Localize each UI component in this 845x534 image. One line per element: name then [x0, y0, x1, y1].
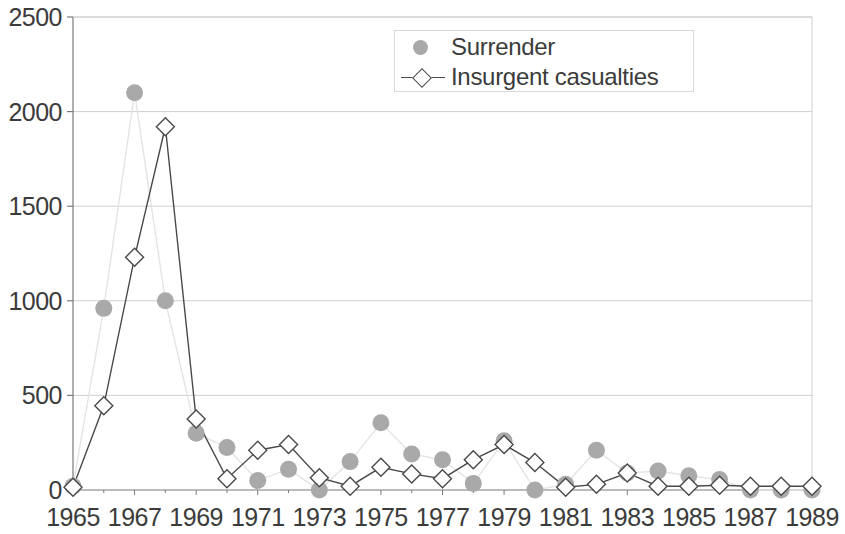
data-point-insurgent-casualties: [464, 451, 482, 469]
x-tick-label: 1965: [46, 503, 100, 532]
legend-label-surrender: Surrender: [451, 31, 555, 62]
data-point-surrender: [218, 439, 235, 456]
y-tick-label: 500: [22, 381, 62, 410]
x-tick-label: 1969: [169, 503, 223, 532]
x-tick-label: 1989: [785, 503, 839, 532]
data-point-surrender: [434, 451, 451, 468]
data-point-insurgent-casualties: [403, 465, 421, 483]
x-tick-label: 1975: [354, 503, 408, 532]
series-surrender-line: [73, 93, 812, 490]
circle-marker-icon: [413, 40, 428, 55]
data-point-surrender: [342, 453, 359, 470]
data-point-insurgent-casualties: [126, 248, 144, 266]
x-tick-label: 1985: [662, 503, 716, 532]
series-insurgent-markers: [64, 118, 821, 496]
x-tick-label: 1971: [231, 503, 285, 532]
x-tick-label: 1987: [724, 503, 778, 532]
data-point-insurgent-casualties: [341, 477, 359, 495]
y-tick-label: 0: [49, 476, 62, 505]
x-tick-label: 1983: [600, 503, 654, 532]
y-tick-label: 2000: [8, 97, 62, 126]
data-point-insurgent-casualties: [434, 470, 452, 488]
y-tick-label: 1500: [8, 192, 62, 221]
data-point-insurgent-casualties: [156, 118, 174, 136]
diamond-marker-icon: [412, 68, 432, 88]
chart-legend: Surrender Insurgent casualties: [394, 30, 694, 92]
data-point-insurgent-casualties: [95, 397, 113, 415]
data-point-insurgent-casualties: [618, 464, 636, 482]
data-point-surrender: [403, 446, 420, 463]
legend-item-insurgent-casualties: Insurgent casualties: [395, 61, 693, 92]
series-surrender-markers: [65, 84, 821, 498]
x-tick-label: 1979: [477, 503, 531, 532]
legend-item-surrender: Surrender: [395, 31, 693, 62]
series-insurgent-line: [73, 127, 812, 487]
x-tick-label: 1973: [293, 503, 347, 532]
data-point-insurgent-casualties: [526, 454, 544, 472]
y-tick-label: 1000: [8, 286, 62, 315]
legend-label-insurgent-casualties: Insurgent casualties: [451, 61, 658, 92]
data-point-surrender: [372, 414, 389, 431]
chart-container: 05001000150020002500 1965196719691971197…: [0, 0, 845, 534]
data-point-surrender: [95, 300, 112, 317]
data-point-surrender: [249, 472, 266, 489]
y-axis-ticks: [67, 17, 73, 490]
data-point-surrender: [157, 292, 174, 309]
data-point-surrender: [280, 461, 297, 478]
legend-key-surrender: [395, 31, 451, 62]
x-tick-label: 1977: [416, 503, 470, 532]
x-tick-label: 1967: [108, 503, 162, 532]
data-point-insurgent-casualties: [187, 410, 205, 428]
data-point-insurgent-casualties: [587, 475, 605, 493]
x-tick-label: 1981: [539, 503, 593, 532]
data-point-surrender: [465, 475, 482, 492]
data-point-surrender: [126, 84, 143, 101]
x-axis-ticks: [73, 490, 812, 495]
legend-key-insurgent-casualties: [395, 61, 451, 92]
data-point-insurgent-casualties: [649, 477, 667, 495]
data-point-insurgent-casualties: [372, 458, 390, 476]
data-point-surrender: [526, 482, 543, 499]
data-point-surrender: [588, 442, 605, 459]
y-tick-label: 2500: [8, 3, 62, 32]
